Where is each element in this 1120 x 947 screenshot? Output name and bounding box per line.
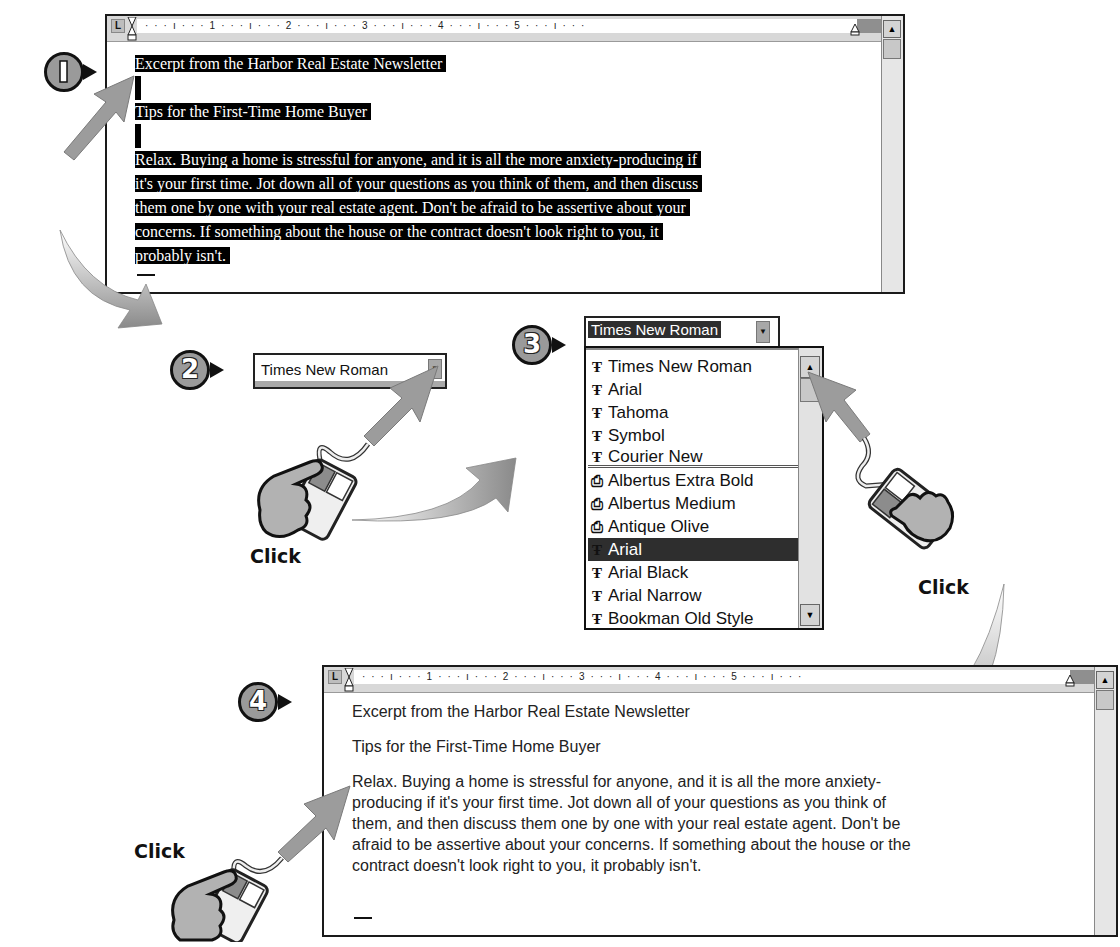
document-window-before: L · · · ı · · · 1 · · · ı · · · 2 · · · …: [105, 14, 905, 294]
right-indent-marker-icon[interactable]: [1065, 673, 1075, 687]
scroll-thumb[interactable]: [883, 39, 901, 59]
horizontal-ruler[interactable]: L · · · ı · · · 1 · · · ı · · · 2 · · · …: [107, 16, 883, 42]
doc-line: concerns. If something about the house o…: [135, 220, 865, 244]
vertical-scrollbar[interactable]: ▲: [1094, 667, 1116, 935]
font-option-label: Symbol: [608, 426, 665, 445]
step-3-badge: 3: [512, 325, 552, 365]
doc-line: afraid to be assertive about your concer…: [352, 834, 1072, 855]
font-option[interactable]: ŦArial Narrow: [588, 584, 798, 607]
font-option-label: Tahoma: [608, 403, 668, 422]
scroll-down-button[interactable]: ▼: [800, 604, 820, 626]
curved-arrow-icon: [58, 228, 168, 338]
printer-font-icon: ⎙: [588, 516, 606, 539]
step-4-badge: 4: [238, 682, 278, 722]
truetype-icon: Ŧ: [588, 402, 606, 425]
font-option-selected[interactable]: ŦArial: [588, 538, 798, 561]
right-indent-marker-icon[interactable]: [850, 22, 860, 36]
truetype-icon: Ŧ: [588, 356, 606, 379]
doc-line: contract doesn't look right to you, it p…: [352, 855, 1072, 876]
doc-line: producing if it's your first time. Jot d…: [352, 792, 1072, 813]
left-indent-marker-icon[interactable]: [344, 668, 354, 692]
font-option-recent[interactable]: ŦSymbol: [588, 424, 798, 447]
truetype-icon: Ŧ: [588, 539, 606, 562]
ruler-right-margin: [857, 19, 881, 33]
doc-line: it's your first time. Jot down all of yo…: [135, 172, 865, 196]
font-option-label: Albertus Medium: [608, 494, 736, 513]
doc-line: Relax. Buying a home is stressful for an…: [352, 771, 1072, 792]
step-4-pointer-icon: [278, 694, 292, 710]
list-top-divider: [586, 348, 822, 350]
font-option-recent[interactable]: ŦTimes New Roman: [588, 355, 798, 378]
mouse-click-icon: [140, 782, 360, 942]
step-number: 3: [523, 329, 541, 359]
doc-line: Excerpt from the Harbor Real Estate News…: [352, 701, 1072, 722]
doc-line-empty: [135, 124, 865, 148]
font-option-label: Times New Roman: [608, 357, 752, 376]
ruler-ticks: · · · ı · · · 1 · · · ı · · · 2 · · · ı …: [145, 19, 855, 33]
font-option[interactable]: ⎙Albertus Extra Bold: [588, 469, 798, 492]
doc-line: Tips for the First-Time Home Buyer: [352, 736, 1072, 757]
font-option-label: Arial Black: [608, 563, 688, 582]
font-option-label: Bookman Old Style: [608, 609, 754, 628]
font-option-recent[interactable]: ŦCourier New: [588, 445, 798, 465]
curved-arrow-icon: [348, 446, 528, 526]
font-option-label: Arial: [608, 380, 642, 399]
document-text[interactable]: Excerpt from the Harbor Real Estate News…: [352, 701, 1072, 876]
step-3-pointer-icon: [552, 337, 566, 353]
ruler-ticks: · · · ı · · · 1 · · · ı · · · 2 · · · ı …: [362, 670, 1068, 684]
tab-stop-selector[interactable]: L: [111, 19, 125, 33]
font-name-value-highlighted[interactable]: Times New Roman: [588, 321, 721, 338]
document-window-after: L · · · ı · · · 1 · · · ı · · · 2 · · · …: [322, 665, 1118, 937]
truetype-icon: Ŧ: [588, 446, 606, 465]
font-option[interactable]: ŦBookman Old Style: [588, 607, 798, 630]
printer-font-icon: ⎙: [588, 493, 606, 516]
doc-line: Excerpt from the Harbor Real Estate News…: [135, 52, 865, 76]
tab-stop-selector[interactable]: L: [328, 670, 342, 684]
scroll-up-button[interactable]: ▲: [883, 20, 901, 38]
font-option-label: Courier New: [608, 447, 702, 465]
font-option-label: Arial Narrow: [608, 586, 702, 605]
truetype-icon: Ŧ: [588, 608, 606, 631]
doc-line-empty: [352, 722, 1072, 736]
doc-line: probably isn't.: [135, 244, 865, 268]
font-name-combo-open[interactable]: Times New Roman ▼: [584, 316, 780, 348]
click-label: Click: [250, 545, 301, 567]
doc-line: them, and then discuss them one by one w…: [352, 813, 1072, 834]
step-2-pointer-icon: [210, 362, 224, 378]
recent-fonts-divider: [588, 465, 798, 468]
step-number: 4: [249, 686, 267, 716]
truetype-icon: Ŧ: [588, 562, 606, 585]
pointer-arrow-icon: [60, 74, 140, 164]
left-indent-marker-icon[interactable]: [127, 17, 137, 41]
font-dropdown-arrow-button[interactable]: ▼: [756, 321, 770, 343]
step-2-badge: 2: [170, 350, 210, 390]
click-label: Click: [134, 840, 185, 862]
font-option-label: Antique Olive: [608, 517, 709, 536]
horizontal-ruler[interactable]: L · · · ı · · · 1 · · · ı · · · 2 · · · …: [324, 667, 1096, 693]
font-dropdown-list[interactable]: ŦTimes New Roman ŦArial ŦTahoma ŦSymbol …: [584, 346, 824, 630]
doc-line: them one by one with your real estate ag…: [135, 196, 865, 220]
truetype-icon: Ŧ: [588, 379, 606, 402]
mouse-click-icon: [800, 368, 980, 568]
document-text-selected[interactable]: Excerpt from the Harbor Real Estate News…: [135, 52, 865, 268]
font-option-recent[interactable]: ŦArial: [588, 378, 798, 401]
vertical-scrollbar[interactable]: ▲: [881, 16, 903, 292]
doc-line-empty: [352, 757, 1072, 771]
doc-line: Relax. Buying a home is stressful for an…: [135, 148, 865, 172]
font-option-label: Arial: [608, 540, 642, 559]
font-option[interactable]: ŦArial Black: [588, 561, 798, 584]
font-option[interactable]: ⎙Antique Olive: [588, 515, 798, 538]
scroll-up-button[interactable]: ▲: [1096, 671, 1114, 689]
font-option-recent[interactable]: ŦTahoma: [588, 401, 798, 424]
step-number: 2: [181, 354, 199, 384]
truetype-icon: Ŧ: [588, 585, 606, 608]
doc-line-empty: [135, 76, 865, 100]
printer-font-icon: ⎙: [588, 470, 606, 493]
font-option-label: Albertus Extra Bold: [608, 471, 754, 490]
doc-line: Tips for the First-Time Home Buyer: [135, 100, 865, 124]
scroll-thumb[interactable]: [1096, 690, 1114, 710]
font-option[interactable]: ⎙Albertus Medium: [588, 492, 798, 515]
